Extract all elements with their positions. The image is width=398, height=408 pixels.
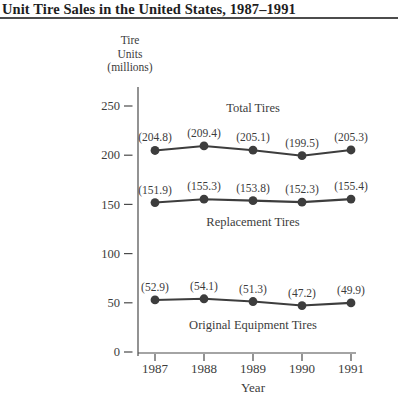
x-tick-label: 1988 — [191, 361, 217, 376]
data-point — [298, 198, 307, 207]
data-point — [249, 297, 258, 306]
data-point-label: (155.4) — [334, 180, 368, 193]
x-tick-label: 1991 — [338, 361, 364, 376]
data-point — [151, 198, 160, 207]
y-tick-label: 200 — [101, 148, 120, 162]
data-point-label: (54.1) — [190, 280, 218, 293]
data-point — [249, 196, 258, 205]
y-tick-label: 150 — [101, 198, 120, 212]
data-point-label: (51.3) — [239, 283, 267, 296]
data-point-label: (155.3) — [187, 180, 221, 193]
data-point — [200, 195, 209, 204]
data-point-label: (199.5) — [285, 137, 319, 150]
data-point — [200, 142, 209, 151]
figure: Unit Tire Sales in the United States, 19… — [0, 0, 398, 408]
data-point — [200, 294, 209, 303]
data-point-label: (204.8) — [138, 131, 172, 144]
data-point — [151, 146, 160, 155]
data-point — [298, 301, 307, 310]
x-tick-label: 1990 — [289, 361, 315, 376]
y-tick-label: 100 — [101, 247, 120, 261]
data-point-label: (151.9) — [138, 184, 172, 197]
data-point-label: (49.9) — [337, 284, 365, 297]
data-point-label: (153.8) — [236, 182, 270, 195]
y-tick-label: 0 — [114, 345, 120, 359]
data-point-label: (47.2) — [288, 287, 316, 300]
y-tick-label: 250 — [101, 99, 120, 113]
data-point-label: (205.3) — [334, 131, 368, 144]
x-tick-label: 1989 — [240, 361, 266, 376]
data-point-label: (152.3) — [285, 183, 319, 196]
data-point — [151, 296, 160, 305]
series-name-label: Original Equipment Tires — [189, 318, 317, 332]
data-point-label: (205.1) — [236, 131, 270, 144]
data-point — [249, 146, 258, 155]
series-name-label: Replacement Tires — [206, 215, 300, 229]
data-point — [347, 195, 356, 204]
chart-canvas: Year 05010015020025019871988198919901991… — [0, 0, 398, 408]
data-point — [347, 298, 356, 307]
data-point-label: (52.9) — [141, 281, 169, 294]
series-name-label: Total Tires — [226, 101, 280, 115]
x-axis-title: Year — [241, 380, 266, 395]
data-point — [347, 146, 356, 155]
x-tick-label: 1987 — [142, 361, 169, 376]
data-point — [298, 151, 307, 160]
data-point-label: (209.4) — [187, 127, 221, 140]
y-tick-label: 50 — [108, 296, 121, 310]
